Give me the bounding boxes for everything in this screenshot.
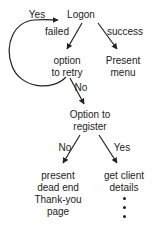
node-text-line: details: [104, 182, 144, 194]
node-text-line: dead end: [34, 182, 81, 194]
node-get-client-details: get client details: [104, 170, 144, 194]
node-text-line: present: [34, 170, 81, 182]
node-logon: Logon: [67, 9, 95, 21]
node-option-to-register: Option to register: [70, 109, 111, 133]
node-text-line: page: [34, 206, 81, 218]
node-text-line: get client: [104, 170, 144, 182]
edge-label-retry-yes: Yes: [29, 9, 45, 21]
node-text-line: menu: [106, 67, 140, 79]
continuation-dot-icon: [123, 215, 126, 218]
node-text-line: Thank-you: [34, 194, 81, 206]
node-text-line: Option to: [70, 109, 111, 121]
continuation-dot-icon: [123, 197, 126, 200]
node-text-line: Present: [106, 55, 140, 67]
node-text-line: option: [51, 55, 82, 67]
edge-label-register-no: No: [59, 142, 72, 154]
node-dead-end-page: present dead end Thank-you page: [34, 170, 81, 218]
edge-label-retry-no: No: [75, 82, 88, 94]
continuation-dot-icon: [123, 206, 126, 209]
node-option-to-retry: option to retry: [51, 55, 82, 79]
node-present-menu: Present menu: [106, 55, 140, 79]
edge-label-register-yes: Yes: [114, 142, 130, 154]
edge-label-failed: failed: [45, 26, 69, 38]
node-text-line: register: [70, 121, 111, 133]
arrow-logon-to-retry: [67, 23, 82, 49]
node-text-line: to retry: [51, 67, 82, 79]
edge-label-success: success: [107, 26, 143, 38]
